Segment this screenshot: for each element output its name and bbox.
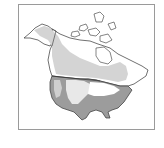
arctic-island bbox=[108, 22, 116, 30]
arctic-island bbox=[100, 34, 112, 43]
north-america-map bbox=[0, 0, 164, 148]
arctic-island bbox=[94, 12, 104, 22]
arctic-island bbox=[71, 31, 80, 37]
arctic-island bbox=[79, 24, 88, 31]
arctic-island bbox=[88, 28, 100, 36]
